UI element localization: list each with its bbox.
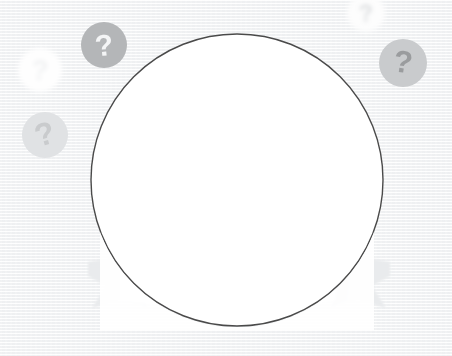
question-badge-ghost-left: ? xyxy=(18,48,62,92)
question-badge-top-left: ? xyxy=(81,22,127,68)
question-badge-ghost-top-right: ? xyxy=(347,0,385,32)
illustration-canvas: ? ? ? ? ? xyxy=(0,0,452,356)
question-badge-lower-left: ? xyxy=(22,112,68,158)
question-mark-illustration: ? ? ? ? ? xyxy=(0,0,452,356)
badge-glyph: ? xyxy=(358,0,374,27)
main-circle-frame xyxy=(91,34,383,326)
question-badge-right: ? xyxy=(379,39,427,87)
badge-glyph: ? xyxy=(93,28,115,63)
badge-glyph: ? xyxy=(30,54,49,86)
